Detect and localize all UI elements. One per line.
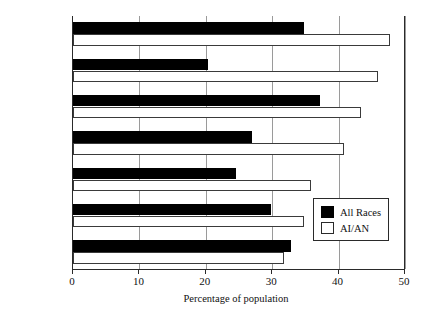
x-tick-mark-20: [205, 270, 206, 274]
x-axis-title-text: Percentage of population: [144, 293, 289, 304]
x-tick-label-10: 10: [133, 275, 144, 287]
bar-chart: ArizonaMinnesotaNew MexicoOregonWashingt…: [0, 0, 432, 320]
bar-aian-oklahoma: [73, 216, 304, 228]
bar-aian-oregon: [73, 143, 344, 155]
bar-aian-washington: [73, 180, 311, 192]
y-label-minnesota: Minnesota: [0, 65, 1, 97]
bar-all-races-california: [73, 240, 291, 252]
x-tick-label-50: 50: [399, 275, 410, 287]
bar-all-races-new-mexico: [73, 95, 320, 107]
x-tick-mark-0: [72, 270, 73, 274]
x-tick-label-20: 20: [199, 275, 210, 287]
y-label-california: California: [0, 247, 1, 278]
bar-group-oregon: [73, 125, 404, 161]
bar-aian-california: [73, 252, 284, 264]
bar-aian-arizona: [73, 34, 390, 46]
legend-item-all-races: All Races: [321, 206, 382, 218]
right-axis-spine: [404, 16, 405, 270]
legend: All Races AI/AN: [313, 198, 389, 241]
bar-all-races-oregon: [73, 131, 252, 143]
x-tick-label-40: 40: [332, 275, 343, 287]
gridline-50: [405, 16, 406, 269]
bar-all-races-minnesota: [73, 59, 208, 71]
x-tick-mark-10: [138, 270, 139, 274]
legend-swatch-filled-square-icon: [321, 206, 334, 218]
bar-group-arizona: [73, 16, 404, 52]
bar-group-new-mexico: [73, 89, 404, 125]
bar-all-races-oklahoma: [73, 204, 271, 216]
y-label-arizona: Arizona: [0, 29, 1, 55]
y-label-new-mexico: New Mexico: [0, 101, 1, 137]
bar-all-races-washington: [73, 168, 236, 180]
bar-all-races-arizona: [73, 22, 304, 34]
x-tick-label-30: 30: [266, 275, 277, 287]
bar-aian-new-mexico: [73, 107, 361, 119]
x-tick-mark-50: [404, 270, 405, 274]
legend-label-all-races: All Races: [340, 207, 381, 218]
x-tick-mark-40: [338, 270, 339, 274]
legend-swatch-hollow-square-icon: [321, 222, 334, 234]
y-label-oregon: Oregon: [0, 138, 1, 163]
x-axis-title: Percentage of population: [0, 293, 432, 304]
y-label-washington: Washington: [0, 174, 1, 208]
y-label-oklahoma: Oklahoma: [0, 210, 1, 241]
legend-label-aian: AI/AN: [340, 223, 369, 234]
bar-aian-minnesota: [73, 71, 378, 83]
legend-item-aian: AI/AN: [321, 222, 382, 234]
bar-group-washington: [73, 161, 404, 197]
x-tick-label-0: 0: [69, 275, 75, 287]
bar-group-minnesota: [73, 52, 404, 88]
x-tick-mark-30: [271, 270, 272, 274]
